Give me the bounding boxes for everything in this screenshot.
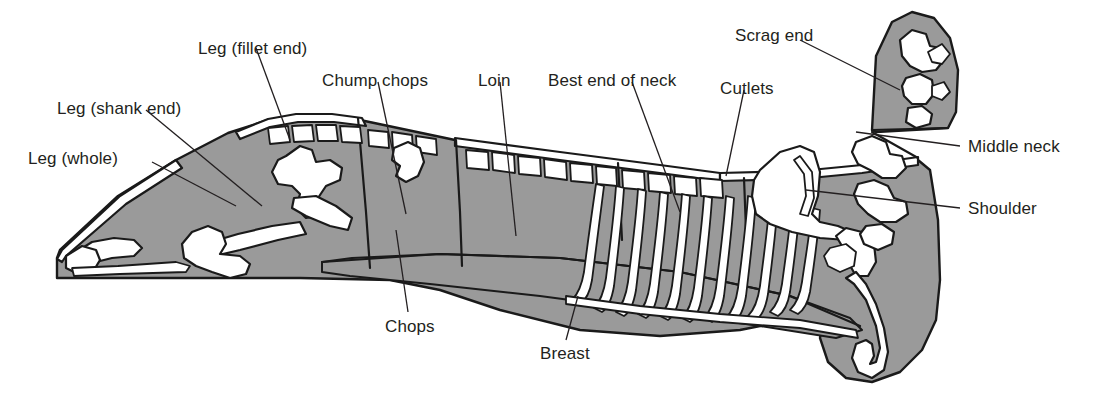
label-scrag-end: Scrag end bbox=[735, 27, 813, 45]
lamb-cuts-figure: .meat { fill:#9a9a9a; stroke:#1a1a1a; st… bbox=[0, 0, 1096, 405]
label-shoulder: Shoulder bbox=[968, 200, 1037, 218]
label-loin: Loin bbox=[478, 72, 511, 90]
label-breast: Breast bbox=[540, 345, 590, 363]
scrag-vertebra-2 bbox=[902, 74, 934, 104]
label-leg-fillet-end: Leg (fillet end) bbox=[198, 40, 307, 58]
leader-cutlets bbox=[726, 90, 744, 176]
label-leg-shank-end: Leg (shank end) bbox=[57, 100, 181, 118]
label-chump-chops: Chump chops bbox=[322, 72, 428, 90]
label-cutlets: Cutlets bbox=[720, 80, 774, 98]
label-chops: Chops bbox=[385, 318, 435, 336]
label-leg-whole: Leg (whole) bbox=[28, 150, 118, 168]
label-middle-neck: Middle neck bbox=[968, 138, 1060, 156]
label-best-end-of-neck: Best end of neck bbox=[548, 72, 676, 90]
